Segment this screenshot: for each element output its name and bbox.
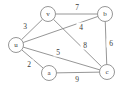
edge-weight-u-b: 4 [79,23,83,32]
node-label-u: u [14,41,18,49]
graph-node-b: b [98,7,113,22]
edge-weight-u-v: 3 [23,22,27,31]
edges-layer [21,14,106,73]
edge-weight-a-c: 9 [75,75,79,84]
graph-node-a: a [42,66,57,81]
graph-node-c: c [100,65,115,80]
weighted-graph-diagram: 37468529 vbuac [0,0,125,88]
edge-weight-u-a: 2 [27,60,31,69]
node-label-b: b [103,10,107,18]
graph-node-v: v [41,7,56,22]
graph-edge-u-b [23,16,98,42]
node-label-c: c [105,68,108,76]
graph-node-u: u [9,38,24,53]
graph-edge-a-c [56,72,99,73]
edge-weight-b-c: 6 [109,39,113,48]
edge-weight-v-b: 7 [75,3,79,12]
edge-weight-v-c: 8 [83,41,87,50]
graph-canvas: 37468529 vbuac [0,0,125,88]
edge-weight-u-c: 5 [56,48,60,57]
node-label-v: v [46,10,50,18]
